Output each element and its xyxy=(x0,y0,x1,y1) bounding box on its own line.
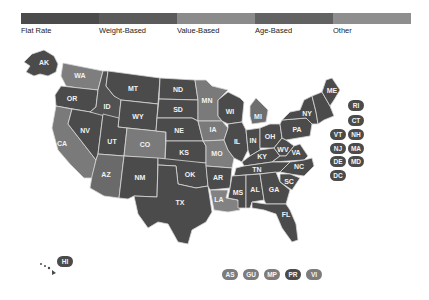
svg-text:MT: MT xyxy=(128,85,139,92)
badge-nh[interactable]: NH xyxy=(348,129,364,140)
svg-text:TN: TN xyxy=(252,166,261,173)
svg-text:KY: KY xyxy=(257,153,267,160)
svg-text:ME: ME xyxy=(327,87,338,94)
state-wi[interactable]: WI xyxy=(218,92,244,124)
svg-text:WI: WI xyxy=(226,108,235,115)
svg-text:OH: OH xyxy=(265,133,276,140)
badge-gu[interactable]: GU xyxy=(243,269,259,280)
svg-text:AL: AL xyxy=(250,186,260,193)
state-nm[interactable]: NM xyxy=(119,156,158,199)
state-fl[interactable]: FL xyxy=(252,202,298,242)
badge-nj[interactable]: NJ xyxy=(330,143,346,154)
hawaii-islands xyxy=(40,263,56,275)
badge-vi[interactable]: VI xyxy=(306,269,322,280)
svg-text:CO: CO xyxy=(140,141,151,148)
us-map: AK WA OR CA NV ID MT WY UT CO xyxy=(0,0,429,300)
state-co[interactable]: CO xyxy=(124,128,166,159)
badge-ct[interactable]: CT xyxy=(348,115,364,126)
badge-md[interactable]: MD xyxy=(348,156,364,167)
svg-text:AK: AK xyxy=(39,59,49,66)
badge-ri[interactable]: RI xyxy=(348,100,364,111)
state-wy[interactable]: WY xyxy=(118,100,158,131)
svg-text:NE: NE xyxy=(174,127,184,134)
badge-ma[interactable]: MA xyxy=(348,143,364,154)
state-mi[interactable]: MI xyxy=(250,98,268,124)
svg-text:TX: TX xyxy=(176,199,185,206)
badge-hi[interactable]: HI xyxy=(57,256,73,267)
svg-text:NC: NC xyxy=(294,163,304,170)
svg-text:OR: OR xyxy=(67,95,78,102)
svg-text:FL: FL xyxy=(282,211,291,218)
svg-text:SC: SC xyxy=(284,178,294,185)
state-wa[interactable]: WA xyxy=(61,63,103,90)
svg-text:ND: ND xyxy=(173,86,183,93)
svg-text:IL: IL xyxy=(234,138,241,145)
state-nd[interactable]: ND xyxy=(159,78,198,100)
svg-text:UT: UT xyxy=(107,138,117,145)
state-ak[interactable]: AK xyxy=(24,50,58,76)
svg-text:AR: AR xyxy=(213,174,223,181)
state-pa[interactable]: PA xyxy=(280,118,312,140)
svg-text:IN: IN xyxy=(250,137,257,144)
svg-text:GA: GA xyxy=(269,186,280,193)
state-ia[interactable]: IA xyxy=(198,121,228,141)
svg-text:NY: NY xyxy=(302,110,312,117)
svg-text:MO: MO xyxy=(211,150,223,157)
svg-text:VA: VA xyxy=(291,149,300,156)
svg-text:MN: MN xyxy=(202,97,213,104)
svg-text:SD: SD xyxy=(173,106,183,113)
svg-text:MS: MS xyxy=(233,189,244,196)
badge-de[interactable]: DE xyxy=(330,156,346,167)
state-ar[interactable]: AR xyxy=(206,166,232,190)
svg-text:AZ: AZ xyxy=(101,171,111,178)
svg-text:NM: NM xyxy=(135,174,146,181)
svg-text:LA: LA xyxy=(214,196,223,203)
svg-text:IA: IA xyxy=(210,126,217,133)
badge-pr[interactable]: PR xyxy=(285,269,301,280)
badge-as[interactable]: AS xyxy=(222,269,238,280)
svg-text:WV: WV xyxy=(277,146,289,153)
svg-text:OK: OK xyxy=(185,171,196,178)
badge-dc[interactable]: DC xyxy=(330,170,346,181)
badge-mp[interactable]: MP xyxy=(264,269,280,280)
svg-text:NV: NV xyxy=(80,127,90,134)
svg-text:ID: ID xyxy=(104,103,111,110)
badge-vt[interactable]: VT xyxy=(330,129,346,140)
svg-text:WA: WA xyxy=(74,72,85,79)
svg-text:PA: PA xyxy=(292,126,301,133)
svg-text:KS: KS xyxy=(179,149,189,156)
svg-text:MI: MI xyxy=(254,113,262,120)
svg-text:WY: WY xyxy=(132,113,144,120)
svg-text:CA: CA xyxy=(57,140,67,147)
